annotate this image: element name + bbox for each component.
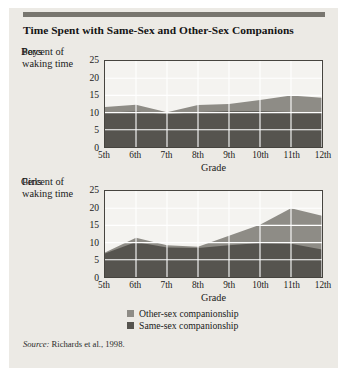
title-rule: [23, 12, 325, 17]
x-tick-label: 11th: [284, 280, 300, 290]
x-tick-label: 8th: [192, 150, 204, 160]
area-series-same-sex: [105, 111, 322, 147]
y-tick-label: 5: [83, 126, 99, 136]
plot-area-girls: [104, 190, 323, 278]
chart-panel-boys: Percent of waking time 0510152025 Boys 5…: [9, 42, 338, 176]
legend-item-same-sex: Same-sex companionship: [127, 320, 327, 331]
x-tick-label: 9th: [223, 150, 235, 160]
area-chart-boys: [105, 61, 322, 147]
y-tick-label: 15: [83, 220, 99, 230]
y-tick-label: 15: [83, 90, 99, 100]
y-tick-label: 25: [83, 185, 99, 195]
x-tick-label: 10th: [252, 150, 269, 160]
y-tick-label: 20: [83, 203, 99, 213]
plot-area-boys: [104, 60, 323, 148]
source-note: Source: Richards et al., 1998.: [23, 339, 125, 349]
y-tick-label: 25: [83, 55, 99, 65]
chart-panel-girls: Percent of waking time 0510152025 Girls …: [9, 172, 338, 306]
source-text: Richards et al., 1998.: [52, 339, 125, 349]
legend-label-same-sex: Same-sex companionship: [139, 321, 238, 331]
x-tick-label: 10th: [252, 280, 269, 290]
x-tick-label: 7th: [161, 150, 173, 160]
source-label: Source:: [23, 339, 49, 349]
x-tick-label: 7th: [161, 280, 173, 290]
x-tick-label: 12th: [315, 280, 332, 290]
x-tick-label: 6th: [129, 150, 141, 160]
y-axis-ticks-boys: 0510152025: [81, 42, 99, 176]
legend-swatch-other-sex: [127, 310, 134, 317]
x-axis-title-girls: Grade: [104, 292, 323, 303]
x-tick-label: 12th: [315, 150, 332, 160]
legend-label-other-sex: Other-sex companionship: [139, 309, 239, 319]
legend-swatch-same-sex: [127, 322, 134, 329]
y-tick-label: 5: [83, 256, 99, 266]
area-chart-girls: [105, 191, 322, 277]
y-tick-label: 10: [83, 108, 99, 118]
figure-title: Time Spent with Same-Sex and Other-Sex C…: [23, 24, 329, 36]
x-tick-label: 11th: [284, 150, 300, 160]
x-tick-label: 9th: [223, 280, 235, 290]
legend-item-other-sex: Other-sex companionship: [127, 308, 327, 319]
y-axis-ticks-girls: 0510152025: [81, 172, 99, 306]
figure-card: Time Spent with Same-Sex and Other-Sex C…: [9, 8, 338, 368]
y-tick-label: 0: [83, 273, 99, 283]
y-tick-label: 10: [83, 238, 99, 248]
y-tick-label: 0: [83, 143, 99, 153]
x-tick-label: 5th: [98, 280, 110, 290]
x-tick-label: 6th: [129, 280, 141, 290]
x-tick-label: 8th: [192, 280, 204, 290]
chart-legend: Other-sex companionship Same-sex compani…: [127, 308, 327, 332]
x-tick-label: 5th: [98, 150, 110, 160]
y-tick-label: 20: [83, 73, 99, 83]
